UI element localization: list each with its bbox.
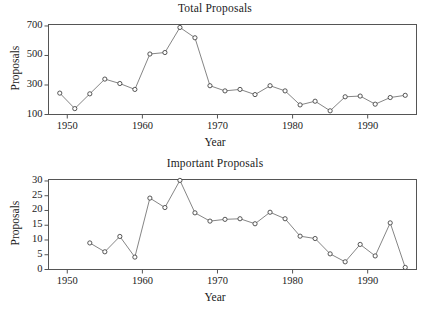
y-tick-label: 30 — [32, 174, 43, 185]
x-tick-label: 1950 — [42, 120, 92, 131]
panel-total-proposals: Total Proposals Proposals Year 100300500… — [0, 0, 430, 156]
y-tick-label: 300 — [27, 78, 43, 89]
y-tick-label: 25 — [32, 189, 43, 200]
y-tick-label: 500 — [27, 48, 43, 59]
x-tick-label: 1960 — [117, 275, 167, 286]
x-tick-label: 1990 — [343, 275, 393, 286]
plot-area-important — [0, 155, 430, 311]
y-tick-label: 15 — [32, 218, 43, 229]
x-tick-label: 1960 — [117, 120, 167, 131]
x-tick-label: 1970 — [192, 275, 242, 286]
y-tick-label: 10 — [32, 233, 43, 244]
panel-important-proposals: Important Proposals Proposals Year 05101… — [0, 155, 430, 311]
x-tick-label: 1980 — [268, 275, 318, 286]
y-tick-label: 5 — [37, 248, 42, 259]
y-tick-label: 100 — [27, 108, 43, 119]
chart-page: Total Proposals Proposals Year 100300500… — [0, 0, 430, 311]
plot-area-total — [0, 0, 430, 156]
x-tick-label: 1980 — [268, 120, 318, 131]
x-tick-label: 1990 — [343, 120, 393, 131]
y-tick-label: 0 — [37, 263, 42, 274]
y-tick-label: 700 — [27, 19, 43, 30]
x-tick-label: 1970 — [192, 120, 242, 131]
x-tick-label: 1950 — [42, 275, 92, 286]
y-tick-label: 20 — [32, 203, 43, 214]
